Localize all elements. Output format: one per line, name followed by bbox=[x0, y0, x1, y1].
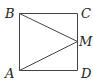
segment-bm bbox=[20, 14, 78, 42]
segment-am bbox=[20, 42, 78, 71]
label-point-a: A bbox=[4, 66, 14, 81]
label-point-d: D bbox=[80, 66, 92, 81]
label-point-b: B bbox=[4, 6, 15, 21]
square-abcd bbox=[20, 14, 78, 71]
label-point-m: M bbox=[78, 34, 93, 49]
label-point-c: C bbox=[81, 6, 91, 21]
geometry-diagram: B C M A D bbox=[0, 0, 93, 81]
